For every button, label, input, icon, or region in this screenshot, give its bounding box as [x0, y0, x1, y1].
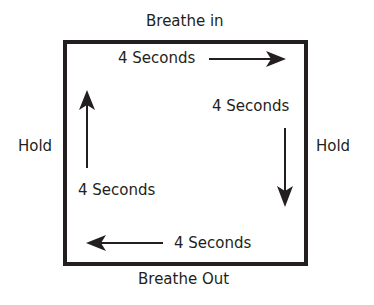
arrow-right-icon: [209, 51, 286, 67]
arrows-layer: [0, 0, 374, 305]
arrow-down-icon: [277, 128, 293, 207]
arrow-left-icon: [86, 235, 163, 251]
arrow-up-icon: [79, 90, 95, 168]
